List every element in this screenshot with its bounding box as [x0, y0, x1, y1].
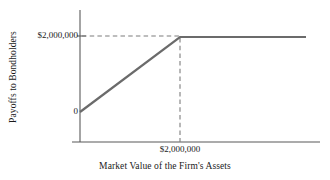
x-axis-title: Market Value of the Firm's Assets [0, 161, 330, 171]
y-axis-tick-label-zero: 0 [74, 106, 79, 116]
payoff-diagram-figure: $2,000,000 0 $2,000,000 Market Value of … [0, 0, 330, 180]
payoff-line [80, 37, 306, 112]
y-axis-tick-label-2000000: $2,000,000 [38, 30, 79, 40]
y-axis-title: Payoffs to Bondholders [8, 15, 18, 139]
x-axis-tick-label-2000000: $2,000,000 [132, 144, 228, 154]
